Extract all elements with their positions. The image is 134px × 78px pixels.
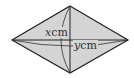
y-diagonal-label: ycm xyxy=(73,39,97,52)
rhombus-diagram: xcm ycm xyxy=(0,0,134,78)
x-diagonal-label: xcm xyxy=(45,26,68,39)
